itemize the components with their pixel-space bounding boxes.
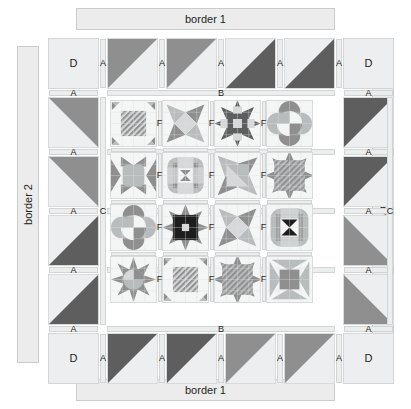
center-block-r3c4 — [266, 204, 313, 251]
border-1-top — [76, 8, 335, 30]
center-sashing-h-r3c3 — [215, 252, 260, 256]
center-sashing-f-r2c1 — [158, 153, 162, 198]
center-sashing-f-r4c3 — [262, 257, 266, 302]
center-sashing-h-r2c2 — [163, 200, 208, 204]
sashing-a-left-3 — [49, 208, 98, 214]
center-sashing-f-r3c3 — [262, 205, 266, 250]
sashing-a-top-3 — [218, 39, 224, 88]
center-sashing-h-r2c3 — [215, 200, 260, 204]
center-sashing-h-r1c1 — [111, 148, 156, 152]
center-block-r1c2 — [162, 100, 209, 147]
center-sashing-f-r4c2 — [210, 257, 214, 302]
center-sashing-f-r1c1 — [158, 101, 162, 146]
hst-bottom-3 — [225, 333, 276, 384]
center-block-r4c1 — [110, 256, 157, 303]
sashing-a-bottom-4 — [277, 334, 283, 383]
hst-bottom-2 — [166, 333, 217, 384]
center-sashing-h-r1c2 — [163, 148, 208, 152]
quilt-layout-diagram: border 1border 1border 2border 2DDDDAAAA… — [0, 0, 411, 409]
center-sashing-h-r1c4 — [267, 148, 312, 152]
center-sashing-f-r1c2 — [210, 101, 214, 146]
center-sashing-f-r2c2 — [210, 153, 214, 198]
center-sashing-h-r3c1 — [111, 252, 156, 256]
sashing-a-bottom-3 — [218, 334, 224, 383]
inner-sashing-row-5 — [107, 326, 335, 332]
hst-left-4 — [48, 274, 99, 325]
center-block-r3c3 — [214, 204, 261, 251]
sashing-a-right-2 — [344, 149, 393, 155]
center-sashing-f-r3c1 — [158, 205, 162, 250]
hst-top-4 — [284, 38, 335, 89]
center-block-r2c2 — [162, 152, 209, 199]
center-block-r4c2 — [162, 256, 209, 303]
hst-left-3 — [48, 215, 99, 266]
hst-left-1 — [48, 97, 99, 148]
corner-square-bottom-right — [343, 333, 394, 384]
hst-bottom-1 — [107, 333, 158, 384]
sashing-a-left-1 — [49, 90, 98, 96]
center-sashing-h-r3c2 — [163, 252, 208, 256]
sashing-a-right-3 — [344, 208, 393, 214]
hst-top-1 — [107, 38, 158, 89]
sashing-a-top-4 — [277, 39, 283, 88]
center-block-r4c4 — [266, 256, 313, 303]
border-2-left — [17, 46, 39, 363]
sashing-a-bottom-5 — [336, 334, 342, 383]
sashing-a-top-2 — [159, 39, 165, 88]
center-block-r2c1 — [110, 152, 157, 199]
sashing-a-top-5 — [336, 39, 342, 88]
center-sashing-h-r2c1 — [111, 200, 156, 204]
center-sashing-f-r1c3 — [262, 101, 266, 146]
hst-top-2 — [166, 38, 217, 89]
center-block-r1c4 — [266, 100, 313, 147]
center-sashing-f-r3c2 — [210, 205, 214, 250]
center-block-r4c3 — [214, 256, 261, 303]
center-sashing-f-r2c3 — [262, 153, 266, 198]
inner-sashing-col-1 — [100, 97, 106, 325]
center-block-r3c2 — [162, 204, 209, 251]
sashing-a-right-4 — [344, 267, 393, 273]
hst-top-3 — [225, 38, 276, 89]
center-sashing-h-r2c4 — [267, 200, 312, 204]
inner-sashing-row-1 — [107, 90, 335, 96]
center-block-r1c3 — [214, 100, 261, 147]
corner-square-top-left — [48, 38, 99, 89]
sashing-a-bottom-2 — [159, 334, 165, 383]
sashing-a-top-1 — [100, 39, 106, 88]
center-block-r3c1 — [110, 204, 157, 251]
center-block-r1c1 — [110, 100, 157, 147]
center-sashing-h-r1c3 — [215, 148, 260, 152]
center-block-r2c4 — [266, 152, 313, 199]
center-sashing-h-r3c4 — [267, 252, 312, 256]
sashing-a-right-5 — [344, 326, 393, 332]
sashing-a-left-5 — [49, 326, 98, 332]
hst-left-2 — [48, 156, 99, 207]
hst-bottom-4 — [284, 333, 335, 384]
sashing-a-left-2 — [49, 149, 98, 155]
corner-square-top-right — [343, 38, 394, 89]
center-sashing-f-r4c1 — [158, 257, 162, 302]
corner-square-bottom-left — [48, 333, 99, 384]
sashing-a-left-4 — [49, 267, 98, 273]
inner-sashing-col-2 — [387, 97, 393, 325]
center-block-r2c3 — [214, 152, 261, 199]
sashing-a-bottom-1 — [100, 334, 106, 383]
sashing-a-right-1 — [344, 90, 393, 96]
